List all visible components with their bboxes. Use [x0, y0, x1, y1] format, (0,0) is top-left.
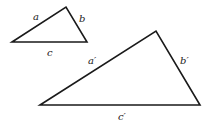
- large-side-c-prime-label: c′: [118, 111, 127, 122]
- small-side-c-label: c: [47, 47, 53, 58]
- large-triangle: a′ b′ c′: [40, 31, 200, 122]
- similar-triangles-diagram: a b c a′ b′ c′: [0, 0, 206, 126]
- small-triangle-outline: [12, 7, 87, 42]
- small-side-a-label: a: [33, 11, 39, 22]
- large-side-a-prime-label: a′: [88, 55, 97, 66]
- small-triangle: a b c: [12, 7, 87, 58]
- small-side-b-label: b: [79, 13, 85, 24]
- large-side-b-prime-label: b′: [180, 55, 189, 66]
